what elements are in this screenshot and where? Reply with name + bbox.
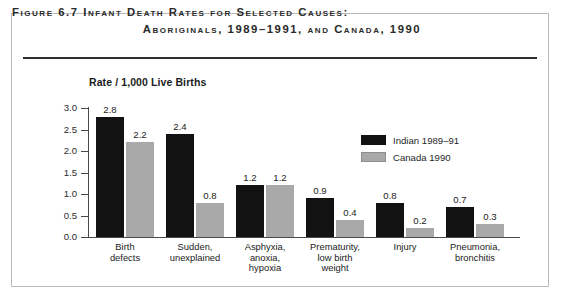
y-axis-tick-label: 1.5	[50, 167, 77, 178]
y-axis-tick	[81, 130, 88, 131]
plot-area: 2.82.22.40.81.21.20.90.40.80.20.70.3	[88, 108, 518, 237]
y-axis-title: Rate / 1,000 Live Births	[89, 76, 206, 88]
bar-canada	[126, 142, 154, 237]
legend-swatch	[361, 135, 386, 145]
y-axis-tick-label: 1.0	[50, 188, 77, 199]
title-divider	[23, 57, 537, 59]
bar-canada	[476, 224, 504, 237]
bar-value-label: 2.4	[165, 121, 195, 132]
chart-legend: Indian 1989–91Canada 1990	[361, 133, 459, 167]
y-axis-tick	[81, 151, 88, 152]
figure-title: Figure 6.7 Infant Death Rates for Select…	[12, 4, 526, 38]
x-axis-line	[88, 237, 520, 238]
y-axis-tick-label: 0.0	[50, 231, 77, 242]
bar-value-label: 0.2	[405, 215, 435, 226]
bar-value-label: 0.4	[335, 207, 365, 218]
y-axis-tick	[81, 108, 88, 109]
bar-indian	[446, 207, 474, 237]
bar-value-label: 2.2	[125, 129, 155, 140]
legend-item: Canada 1990	[361, 150, 459, 164]
bar-canada	[406, 228, 434, 237]
y-axis-tick	[81, 173, 88, 174]
y-axis-tick-label: 0.5	[50, 210, 77, 221]
figure-title-line-1: Figure 6.7 Infant Death Rates for Select…	[12, 4, 526, 21]
x-axis-category-label: Pneumonia,bronchitis	[433, 242, 517, 263]
bar-indian	[96, 117, 124, 237]
bar-canada	[266, 185, 294, 237]
bar-value-label: 0.3	[475, 211, 505, 222]
bar-value-label: 0.8	[375, 190, 405, 201]
legend-item: Indian 1989–91	[361, 133, 459, 147]
bar-value-label: 0.7	[445, 194, 475, 205]
y-axis-tick-label: 2.0	[50, 145, 77, 156]
bar-canada	[196, 203, 224, 237]
bar-value-label: 1.2	[235, 172, 265, 183]
bar-indian	[306, 198, 334, 237]
y-axis-tick-label: 2.5	[50, 124, 77, 135]
legend-swatch	[361, 152, 386, 162]
figure-container: Figure 6.7 Infant Death Rates for Select…	[0, 0, 564, 294]
bar-indian	[236, 185, 264, 237]
y-axis-tick-label: 3.0	[50, 102, 77, 113]
y-axis-tick	[81, 194, 88, 195]
figure-title-line-2: Aboriginals, 1989–1991, and Canada, 1990	[12, 21, 526, 38]
bar-indian	[166, 134, 194, 237]
legend-label: Indian 1989–91	[393, 135, 459, 146]
bar-value-label: 0.9	[305, 185, 335, 196]
bar-value-label: 0.8	[195, 190, 225, 201]
y-axis-tick	[81, 216, 88, 217]
bar-value-label: 1.2	[265, 172, 295, 183]
y-axis-tick	[81, 237, 88, 238]
bar-canada	[336, 220, 364, 237]
legend-label: Canada 1990	[393, 152, 451, 163]
bar-indian	[376, 203, 404, 237]
bar-value-label: 2.8	[95, 104, 125, 115]
